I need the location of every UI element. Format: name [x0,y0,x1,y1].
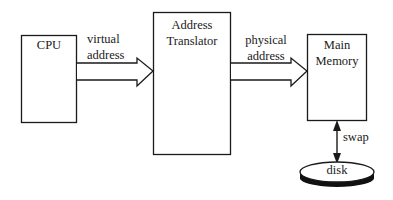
virtual-address-label-line2: address [87,48,125,63]
translator-label-line2: Translator [153,34,231,49]
translator-label-line1: Address [153,18,231,33]
virtual-address-label-line1: virtual [87,32,120,47]
physical-address-label-line1: physical [236,33,296,48]
cpu-label: CPU [21,38,77,53]
swap-arrow [333,120,341,164]
memory-label-line1: Main [307,38,367,53]
memory-label-line2: Memory [307,54,367,69]
disk-label: disk [300,163,374,178]
swap-arrowhead-up [333,120,341,131]
swap-label: swap [343,130,369,145]
physical-address-label-line2: address [236,49,296,64]
